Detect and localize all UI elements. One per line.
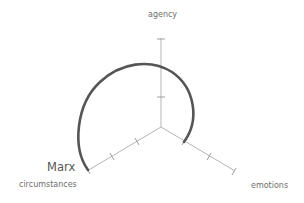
subject-name: Marx (47, 160, 75, 174)
marx-profile-curve (78, 64, 193, 170)
circumstances-tick-1 (135, 138, 139, 145)
emotions-axis-label: emotions (251, 181, 288, 190)
circumstances-axis-label: circumstances (19, 180, 77, 189)
radial-diagram (0, 0, 304, 203)
circumstances-axis (87, 127, 161, 171)
agency-axis-label: agency (148, 10, 177, 19)
emotions-axis (161, 127, 235, 171)
